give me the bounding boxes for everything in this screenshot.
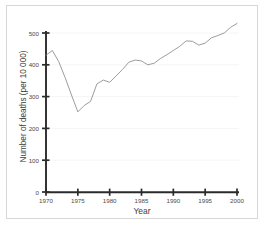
- x-axis-title: Year: [46, 206, 238, 216]
- x-tick-label: 1995: [192, 197, 218, 204]
- x-tick-label: 1970: [33, 197, 59, 204]
- gridlines-group: [46, 33, 239, 160]
- x-tick-label: 1985: [129, 197, 155, 204]
- y-tick-label: 0: [18, 189, 39, 196]
- y-axis-title: Number of deaths (per 10 000): [19, 32, 28, 182]
- x-tick-label: 1980: [97, 197, 123, 204]
- chart-figure: 0100200300400500 19701975198019851990199…: [0, 0, 267, 245]
- x-tick-label: 1990: [160, 197, 186, 204]
- data-series-line: [46, 23, 237, 111]
- x-tick-label: 1975: [65, 197, 91, 204]
- x-tick-label: 2000: [224, 197, 250, 204]
